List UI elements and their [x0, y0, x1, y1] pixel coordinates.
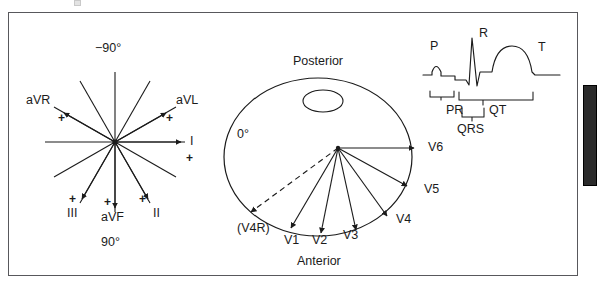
vector-V1	[291, 148, 338, 228]
hexaxial-diagram	[45, 72, 185, 212]
precordial-label-V1: V1	[284, 234, 299, 247]
lead-label-I: I	[190, 135, 193, 148]
precordial-label-V6: V6	[428, 141, 443, 154]
p-wave-label: P	[430, 40, 438, 53]
precordial-label-V2: V2	[312, 234, 327, 247]
precordial-label-V5: V5	[424, 183, 439, 196]
lead-polarity-II: +	[139, 193, 146, 205]
lead-polarity-III: +	[69, 193, 76, 205]
hexaxial-positive-vectors	[64, 113, 181, 208]
chest-angle-label: 0°	[237, 128, 249, 141]
ecg-lead-figure: −90° 90° aVR + aVL + I + II + aVF + III …	[0, 0, 600, 290]
precordial-label-V3: V3	[343, 229, 358, 242]
precordial-label-V4R: (V4R)	[237, 222, 270, 235]
pr-interval-bracket	[430, 91, 454, 100]
lead-label-aVR: aVR	[26, 94, 50, 107]
lead-label-aVL: aVL	[176, 94, 198, 107]
t-wave-label: T	[538, 41, 546, 54]
precordial-label-V4: V4	[396, 213, 411, 226]
chest-cross-section-diagram	[224, 78, 414, 236]
vector-V4R	[251, 148, 338, 212]
vector-lead-III	[82, 142, 115, 199]
posterior-label: Posterior	[293, 55, 343, 68]
page-edge-tab-marker	[583, 85, 597, 186]
vector-V5	[338, 148, 407, 186]
precordial-vectors	[251, 148, 414, 233]
qrs-interval-label: QRS	[457, 123, 484, 136]
lead-polarity-I: +	[186, 152, 193, 164]
lead-label-aVF: aVF	[101, 211, 124, 224]
hexaxial-bottom-angle-label: 90°	[101, 236, 120, 249]
qrs-interval-bracket	[462, 108, 484, 121]
anterior-label: Anterior	[297, 255, 341, 268]
hexaxial-center-point	[112, 139, 117, 144]
hexaxial-top-angle-label: −90°	[95, 42, 121, 55]
vertebra-outline	[303, 90, 343, 112]
figure-drawing-layer	[0, 0, 600, 290]
qt-interval-label: QT	[489, 104, 506, 117]
r-wave-label: R	[479, 27, 488, 40]
lead-polarity-aVL: +	[166, 112, 173, 124]
vector-lead-aVR	[64, 113, 115, 142]
lead-polarity-aVR: +	[58, 112, 65, 124]
pr-interval-label: PR	[446, 104, 463, 117]
lead-label-III: III	[67, 207, 77, 220]
vector-V2	[321, 148, 338, 233]
lead-label-II: II	[153, 207, 160, 220]
lead-polarity-aVF: +	[104, 196, 111, 208]
vector-lead-II	[115, 142, 148, 199]
vector-lead-aVL	[115, 113, 166, 142]
chest-vector-origin	[336, 146, 340, 150]
